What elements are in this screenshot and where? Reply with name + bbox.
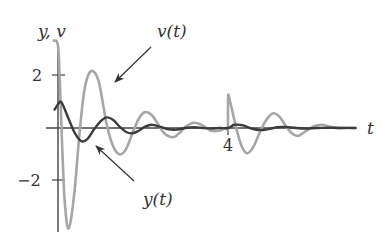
v-curve-arrow [115,47,151,82]
y-curve [55,101,356,141]
x-axis-label: t [367,118,374,138]
x-tick-label-4: 4 [223,136,233,155]
y-axis-label: y, v [37,21,66,41]
y-tick-label-2: 2 [32,66,42,85]
y-curve-label: y(t) [142,189,173,209]
chart: 2 −2 4 y, v t v(t) y(t) [0,0,391,244]
v-curve-label: v(t) [157,21,187,41]
plot-area [54,40,356,228]
v-curve [54,40,356,228]
y-tick-label-neg2: −2 [17,171,41,190]
